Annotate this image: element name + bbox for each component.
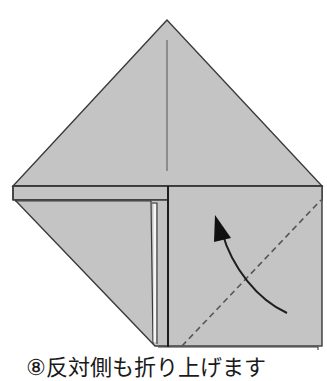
- bottom-layer-edge: [158, 347, 318, 350]
- left-folded-flap: [15, 200, 168, 346]
- right-square-flap: [168, 186, 322, 346]
- left-flap-highlight: [154, 204, 157, 342]
- step-caption: ⑧反対側も折り上げます: [26, 355, 266, 381]
- origami-diagram: [0, 0, 327, 352]
